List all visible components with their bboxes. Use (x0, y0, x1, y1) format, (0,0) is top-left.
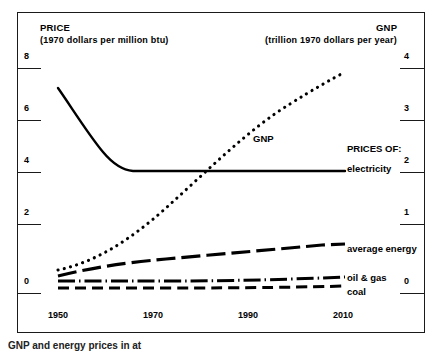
x-tick-label-1950: 1950 (48, 310, 68, 320)
x-tick-label-1970: 1970 (143, 310, 163, 320)
series-line-average-energy (58, 244, 345, 276)
series-label-oil-gas: oil & gas (347, 272, 387, 283)
plot-area (0, 0, 438, 351)
x-tick-label-1990: 1990 (238, 310, 258, 320)
energy-price-gnp-chart: PRICE (1970 dollars per million btu) GNP… (0, 0, 438, 351)
series-label-gnp: GNP (253, 133, 274, 144)
x-tick-label-2010: 2010 (333, 310, 353, 320)
series-line-electricity (58, 88, 345, 171)
series-line-oil-gas (58, 277, 345, 281)
prices-of-heading: PRICES OF: (347, 143, 401, 154)
series-label-electricity: electricity (347, 163, 391, 174)
figure-caption: GNP and energy prices in at (8, 340, 308, 351)
series-line-coal (58, 286, 345, 288)
series-label-average-energy: average energy (347, 243, 417, 254)
series-label-coal: coal (347, 286, 366, 297)
